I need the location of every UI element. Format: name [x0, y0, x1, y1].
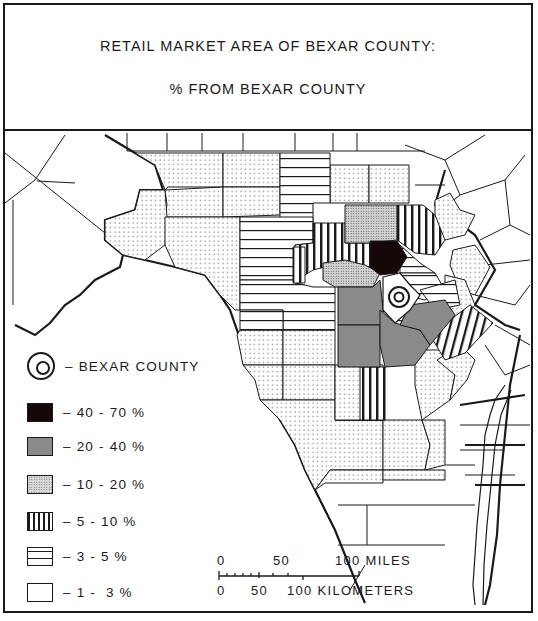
bexar-county-symbol-icon: [27, 352, 55, 380]
vertical-lines-swatch-icon: [27, 512, 53, 531]
legend-item-bexar: – BEXAR COUNTY: [27, 355, 200, 377]
horizontal-lines-swatch-icon: [27, 547, 53, 566]
dense-stipple-swatch-icon: [27, 475, 53, 494]
sparse-dots-swatch-icon: [27, 583, 53, 602]
scale-ruler-icon: [217, 569, 367, 581]
legend-item-3-5: – 3 - 5 %: [27, 545, 128, 567]
map-frame: RETAIL MARKET AREA OF BEXAR COUNTY: % FR…: [3, 3, 533, 613]
map-title: RETAIL MARKET AREA OF BEXAR COUNTY:: [5, 38, 531, 54]
legend-item-1-3: – 1 - 3 %: [27, 581, 133, 603]
legend-item-20-40: – 20 - 40 %: [27, 435, 145, 457]
scale-bar: 0 50 100 MILES 0 50 100 KILOMETERS: [217, 553, 457, 603]
solid-black-swatch-icon: [27, 403, 53, 422]
map-subtitle: % FROM BEXAR COUNTY: [5, 81, 531, 97]
legend-item-5-10: – 5 - 10 %: [27, 510, 137, 532]
legend-item-10-20: – 10 - 20 %: [27, 473, 145, 495]
title-box: RETAIL MARKET AREA OF BEXAR COUNTY: % FR…: [5, 5, 531, 131]
solid-gray-swatch-icon: [27, 437, 53, 456]
legend-item-40-70: – 40 - 70 %: [27, 401, 145, 423]
